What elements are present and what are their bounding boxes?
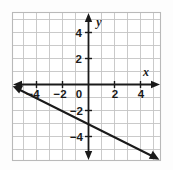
y-tick-label-neg4: −4 — [70, 131, 84, 143]
x-tick-label-neg4: −4 — [26, 88, 40, 100]
x-tick-label-4: 4 — [138, 88, 145, 100]
x-tick-label-zero: 0 — [76, 88, 82, 100]
y-tick-label-neg2: −2 — [70, 105, 83, 117]
y-tick-label-4: 4 — [76, 27, 83, 39]
graph-canvas: 4 2 −2 −4 −4 −2 0 2 4 x y — [0, 0, 173, 170]
y-tick-label-2: 2 — [76, 53, 82, 65]
plot-background — [13, 13, 161, 161]
x-tick-label-2: 2 — [112, 88, 118, 100]
x-tick-label-neg2: −2 — [53, 88, 66, 100]
y-axis-label: y — [94, 15, 102, 29]
x-axis-label: x — [142, 65, 149, 79]
coordinate-plane-figure: 4 2 −2 −4 −4 −2 0 2 4 x y — [0, 0, 173, 170]
